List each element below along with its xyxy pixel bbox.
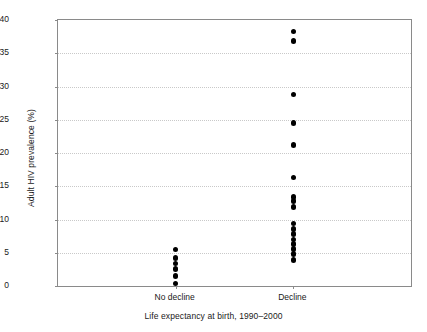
y-tick-mark — [55, 220, 58, 221]
gridline — [58, 220, 411, 221]
data-point — [291, 251, 297, 257]
gridline — [58, 186, 411, 187]
data-point — [291, 204, 297, 210]
y-tick-label: 25 — [0, 114, 9, 124]
y-tick-label: 10 — [0, 214, 9, 224]
gridlines — [58, 20, 411, 286]
y-tick-mark — [55, 20, 58, 21]
data-point — [291, 257, 297, 263]
chart-figure: Adult HIV prevalence (%) 051015202530354… — [0, 0, 427, 332]
y-tick-mark — [55, 87, 58, 88]
y-tick-mark — [55, 186, 58, 187]
gridline — [58, 87, 411, 88]
x-tick-mark — [176, 286, 177, 289]
y-tick-mark — [55, 153, 58, 154]
data-point — [291, 198, 297, 204]
data-point — [291, 142, 297, 148]
x-tick-label-no-decline: No decline — [155, 292, 195, 302]
x-tick-mark — [293, 286, 294, 289]
y-tick-mark — [55, 253, 58, 254]
y-tick-label: 30 — [0, 81, 9, 91]
plot-area — [57, 19, 412, 287]
y-tick-mark — [55, 120, 58, 121]
y-tick-label: 15 — [0, 180, 9, 190]
data-point — [291, 38, 297, 44]
gridline — [58, 120, 411, 121]
data-point — [291, 29, 297, 35]
y-tick-label: 20 — [0, 147, 9, 157]
y-tick-label: 35 — [0, 47, 9, 57]
gridline — [58, 53, 411, 54]
data-point — [291, 120, 297, 126]
data-point — [173, 266, 179, 272]
x-tick-label-decline: Decline — [278, 292, 306, 302]
gridline — [58, 153, 411, 154]
y-axis-title: Adult HIV prevalence (%) — [26, 53, 36, 263]
gridline — [58, 253, 411, 254]
y-tick-label: 40 — [0, 14, 9, 24]
y-tick-label: 0 — [0, 280, 9, 290]
y-tick-label: 5 — [0, 247, 9, 257]
x-axis-title: Life expectancy at birth, 1990–2000 — [0, 311, 427, 321]
y-tick-mark — [55, 286, 58, 287]
y-tick-mark — [55, 53, 58, 54]
